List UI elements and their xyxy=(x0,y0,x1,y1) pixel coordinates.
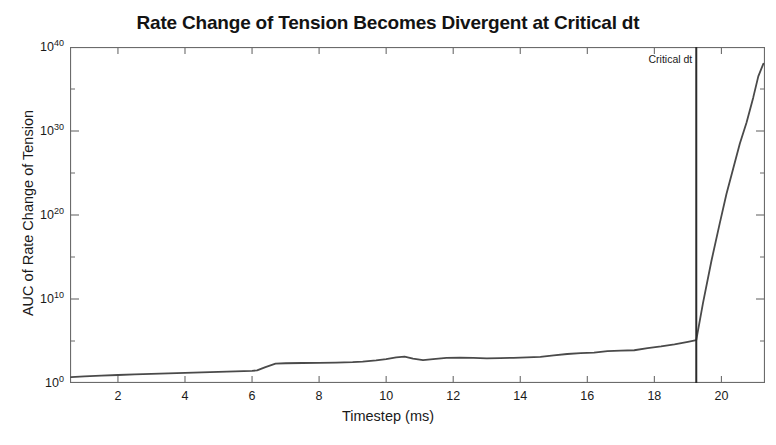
page-title: Rate Change of Tension Becomes Divergent… xyxy=(0,12,776,34)
x-tick-label: 20 xyxy=(714,389,728,403)
x-tick-label: 12 xyxy=(446,389,460,403)
x-tick-label: 16 xyxy=(580,389,594,403)
plot-svg xyxy=(70,47,765,383)
critical-dt-annotation: Critical dt xyxy=(0,53,692,65)
x-tick-label: 14 xyxy=(513,389,527,403)
x-tick-label: 4 xyxy=(182,389,189,403)
plot-area xyxy=(70,47,765,383)
x-tick-label: 2 xyxy=(114,389,121,403)
x-tick-label: 6 xyxy=(249,389,256,403)
x-tick-label: 10 xyxy=(379,389,393,403)
plot-border xyxy=(71,48,765,383)
x-tick-label: 8 xyxy=(316,389,323,403)
plot-frame xyxy=(71,48,765,383)
chart-figure: Rate Change of Tension Becomes Divergent… xyxy=(0,0,776,445)
x-axis-label: Timestep (ms) xyxy=(0,408,776,424)
x-tick-label: 18 xyxy=(647,389,661,403)
y-axis-label: AUC of Rate Change of Tension xyxy=(20,45,36,381)
